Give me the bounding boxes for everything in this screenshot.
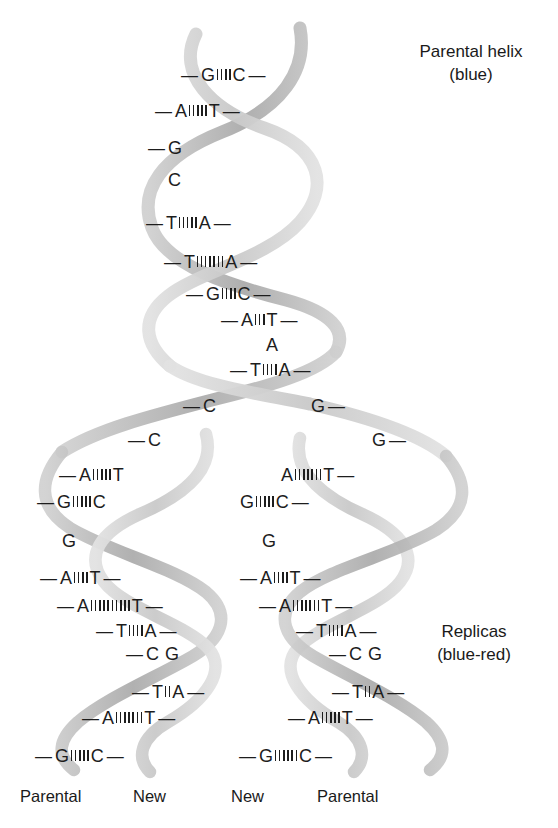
hydrogen-bonds xyxy=(197,256,224,269)
base-pair-row: —GC— xyxy=(239,748,332,765)
caption-replicas: Replicas (blue-red) xyxy=(404,620,544,666)
bottom-strand-labels: Parental New New Parental xyxy=(0,786,558,814)
base-right: T xyxy=(342,710,353,727)
base-right: C xyxy=(238,286,251,303)
backbone-dash-left: — xyxy=(148,140,165,157)
backbone-dash-right: — xyxy=(107,748,124,765)
base-left: G xyxy=(206,286,220,303)
unpaired-base: —C xyxy=(183,398,216,415)
base-pair-row: —TA— xyxy=(132,684,204,701)
backbone-dash-right: — xyxy=(214,215,231,232)
base-left: C xyxy=(148,432,161,449)
backbone-dash-left: — xyxy=(155,103,172,120)
base-pair-row: —CG xyxy=(329,646,382,663)
base-left: G xyxy=(55,748,69,765)
caption-replicas-line1: Replicas xyxy=(404,620,544,643)
base-right: A xyxy=(225,254,237,271)
base-right: G xyxy=(311,398,325,415)
backbone-dash-left: — xyxy=(59,467,76,484)
strand-label-parental-right: Parental xyxy=(317,786,378,806)
base-left: G xyxy=(201,67,215,84)
base-pair-row: —TA— xyxy=(164,254,257,271)
base-pair-row: GC— xyxy=(240,494,309,511)
hydrogen-bonds xyxy=(329,625,344,638)
backbone-dash-right: — xyxy=(292,494,309,511)
dna-replication-figure: —GC——AT——GC—TA——TA——GC——AT—A—TA— —C—CG—G… xyxy=(0,0,558,828)
base-left: C xyxy=(146,646,159,663)
base-pair-row: —AT— xyxy=(221,312,297,329)
caption-parental-helix: Parental helix (blue) xyxy=(396,40,546,86)
base-right: A xyxy=(145,623,157,640)
hydrogen-bonds xyxy=(263,364,278,377)
base-left: A xyxy=(260,570,272,587)
base-right: T xyxy=(323,467,334,484)
base-pair-row: —TA— xyxy=(230,362,311,379)
backbone-dash-left: — xyxy=(35,748,52,765)
hydrogen-bonds xyxy=(295,469,322,482)
base-pair-row: —AT— xyxy=(40,570,121,587)
base-left: C xyxy=(203,398,216,415)
hydrogen-bonds xyxy=(71,750,90,763)
base-pair-row: —GC xyxy=(37,494,106,511)
base-left: T xyxy=(316,623,327,640)
backbone-dash-right: — xyxy=(356,710,373,727)
base-pair-row: —GC— xyxy=(181,67,266,84)
hydrogen-bonds xyxy=(179,217,198,230)
backbone-dash-left: — xyxy=(183,398,200,415)
base-right: G xyxy=(372,432,386,449)
hydrogen-bonds xyxy=(93,469,112,482)
base-right: T xyxy=(90,570,101,587)
backbone-dash-right: — xyxy=(315,748,332,765)
base-right: C xyxy=(299,748,312,765)
base-left: T xyxy=(352,684,363,701)
base-right: T xyxy=(144,710,155,727)
hydrogen-bonds xyxy=(189,105,208,118)
backbone-dash-right: — xyxy=(337,467,354,484)
backbone-dash-right: — xyxy=(240,254,257,271)
strand-label-new-right: New xyxy=(231,786,264,806)
hydrogen-bonds xyxy=(165,686,171,699)
base-pair-row: —GC— xyxy=(186,286,271,303)
base-right: A xyxy=(172,684,184,701)
hydrogen-bonds xyxy=(255,314,265,327)
unpaired-base: G— xyxy=(311,398,345,415)
base-pair-row: —CG xyxy=(126,646,179,663)
base-pair-row: G xyxy=(62,533,76,550)
backbone-dash-left: — xyxy=(146,215,163,232)
base-left: A xyxy=(175,103,187,120)
base-pair-row: —TA— xyxy=(96,623,177,640)
base-left: T xyxy=(250,362,261,379)
backbone-dash-right: — xyxy=(387,684,404,701)
unpaired-base: —C xyxy=(128,432,161,449)
backbone-dash-left: — xyxy=(288,710,305,727)
backbone-dash-left: — xyxy=(186,286,203,303)
base-left: G xyxy=(240,494,254,511)
base-right: C xyxy=(93,494,106,511)
caption-replicas-line2: (blue-red) xyxy=(404,643,544,666)
base-right: T xyxy=(290,570,301,587)
hydrogen-bonds xyxy=(322,712,341,725)
strand-label-new-left: New xyxy=(133,786,166,806)
base-pair-row: C xyxy=(168,172,181,189)
backbone-dash-left: — xyxy=(332,684,349,701)
base-pair-row: —AT— xyxy=(57,598,163,615)
base-left: G xyxy=(262,533,276,550)
backbone-dash-right: — xyxy=(328,398,345,415)
helix-ribbon-artwork xyxy=(0,0,558,828)
hydrogen-bonds xyxy=(293,600,320,613)
backbone-dash-left: — xyxy=(96,623,113,640)
base-right: A xyxy=(279,362,291,379)
base-left: A xyxy=(60,570,72,587)
strand-label-parental-left: Parental xyxy=(20,786,81,806)
backbone-dash-left: — xyxy=(82,710,99,727)
base-left: T xyxy=(152,684,163,701)
base-right: T xyxy=(132,598,143,615)
caption-parental-line1: Parental helix xyxy=(396,40,546,63)
base-left: C xyxy=(168,172,181,189)
base-pair-row: —AT— xyxy=(288,710,373,727)
base-left: G xyxy=(62,533,76,550)
base-left: A xyxy=(281,467,293,484)
backbone-dash-right: — xyxy=(294,362,311,379)
base-right: C xyxy=(276,494,289,511)
hydrogen-bonds xyxy=(275,750,298,763)
